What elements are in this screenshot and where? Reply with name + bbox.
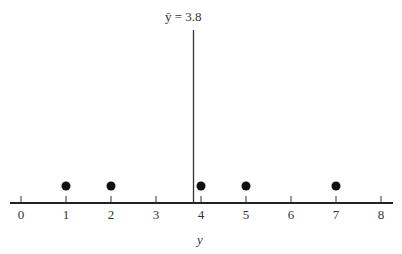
x-tick-label: 5 bbox=[243, 208, 250, 221]
x-tick-label: 1 bbox=[63, 208, 70, 221]
x-tick-label: 3 bbox=[153, 208, 160, 221]
data-point bbox=[62, 182, 71, 191]
x-tick-label: 6 bbox=[288, 208, 295, 221]
data-point bbox=[197, 182, 206, 191]
x-tick-label: 2 bbox=[108, 208, 115, 221]
mean-annotation: ȳ = 3.8 bbox=[165, 9, 202, 25]
x-tick-label: 7 bbox=[333, 208, 340, 221]
x-axis-ticks bbox=[21, 196, 381, 203]
x-tick-label: 0 bbox=[18, 208, 25, 221]
data-point bbox=[332, 182, 341, 191]
data-points bbox=[62, 182, 341, 191]
data-point bbox=[242, 182, 251, 191]
data-point bbox=[107, 182, 116, 191]
x-tick-label: 8 bbox=[378, 208, 385, 221]
x-axis-label: y bbox=[197, 232, 203, 248]
x-tick-label: 4 bbox=[198, 208, 205, 221]
